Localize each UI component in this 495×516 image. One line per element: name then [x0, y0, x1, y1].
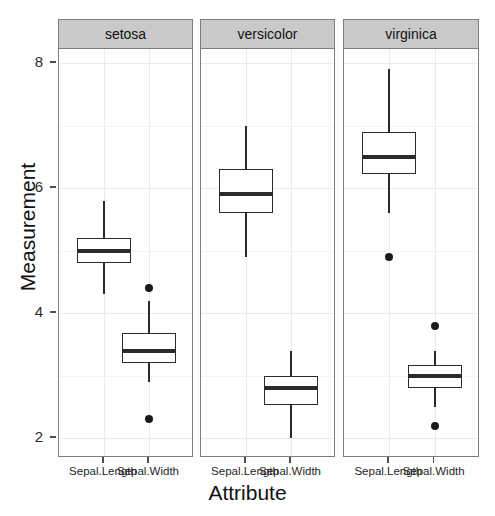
gridline-horizontal-minor [59, 376, 192, 377]
facet-strip-setosa: setosa [58, 19, 193, 48]
whisker-lower [103, 263, 105, 294]
gridline-horizontal-minor [201, 126, 334, 127]
whisker-lower [388, 174, 390, 213]
whisker-upper [148, 301, 150, 334]
gridline-horizontal [344, 63, 478, 64]
outlier-point [431, 422, 439, 430]
box-iqr [264, 376, 318, 406]
whisker-upper [434, 351, 436, 365]
boxplot-figure: Measurement Attribute 2468 setosaSepal.L… [0, 0, 495, 516]
y-tick-label: 8 [17, 54, 43, 69]
facet-strip-virginica: virginica [343, 19, 479, 48]
x-axis-title: Attribute [0, 481, 495, 505]
panel-virginica [343, 48, 479, 457]
gridline-horizontal-minor [201, 251, 334, 252]
outlier-point [145, 415, 153, 423]
median-line [219, 192, 273, 196]
y-tick-mark [50, 186, 56, 188]
x-tick-mark [244, 457, 246, 463]
median-line [408, 374, 462, 378]
x-tick-label: Sepal.Width [394, 466, 474, 478]
panel-setosa [58, 48, 193, 457]
x-tick-mark [433, 457, 435, 463]
y-tick-mark [50, 311, 56, 313]
facet-strip-label: virginica [385, 27, 436, 41]
median-line [362, 155, 416, 159]
y-tick-label: 6 [17, 179, 43, 194]
median-line [264, 386, 318, 390]
facet-strip-label: setosa [105, 27, 146, 41]
x-tick-label: Sepal.Width [250, 466, 330, 478]
gridline-horizontal [344, 188, 478, 189]
y-tick-label: 2 [17, 429, 43, 444]
gridline-horizontal [59, 63, 192, 64]
gridline-horizontal [201, 63, 334, 64]
median-line [122, 349, 176, 353]
whisker-upper [103, 201, 105, 239]
gridline-horizontal-minor [344, 251, 478, 252]
panel-versicolor [200, 48, 335, 457]
gridline-horizontal [344, 438, 478, 439]
facet-strip-label: versicolor [238, 27, 298, 41]
whisker-lower [148, 363, 150, 382]
whisker-lower [434, 388, 436, 407]
gridline-horizontal [59, 313, 192, 314]
y-tick-mark [50, 436, 56, 438]
facet-strip-versicolor: versicolor [200, 19, 335, 48]
box-iqr [219, 169, 273, 213]
gridline-horizontal-minor [344, 126, 478, 127]
gridline-vertical [149, 49, 150, 456]
outlier-point [431, 322, 439, 330]
outlier-point [145, 284, 153, 292]
whisker-upper [290, 351, 292, 376]
whisker-lower [290, 405, 292, 438]
gridline-horizontal [201, 438, 334, 439]
gridline-horizontal [201, 313, 334, 314]
box-iqr [362, 132, 416, 174]
x-tick-label: Sepal.Width [108, 466, 188, 478]
whisker-lower [245, 213, 247, 257]
x-tick-mark [147, 457, 149, 463]
y-tick-mark [50, 61, 56, 63]
gridline-horizontal [344, 313, 478, 314]
x-tick-mark [387, 457, 389, 463]
x-tick-mark [102, 457, 104, 463]
outlier-point [385, 253, 393, 261]
gridline-horizontal [59, 188, 192, 189]
whisker-upper [245, 126, 247, 170]
gridline-horizontal-minor [59, 126, 192, 127]
x-tick-mark [289, 457, 291, 463]
gridline-horizontal [59, 438, 192, 439]
median-line [77, 249, 131, 253]
y-tick-label: 4 [17, 304, 43, 319]
whisker-upper [388, 69, 390, 132]
